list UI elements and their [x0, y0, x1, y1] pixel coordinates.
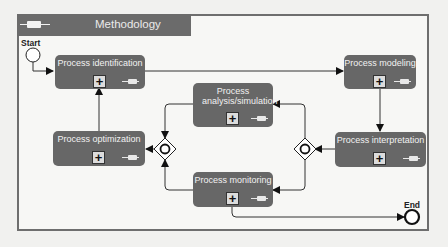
task-label: Process identification	[57, 58, 142, 68]
expand-subprocess-icon[interactable]: +	[226, 112, 239, 125]
message-envelope-icon	[409, 156, 418, 161]
message-envelope-icon	[400, 79, 409, 84]
expand-subprocess-icon[interactable]: +	[93, 75, 106, 88]
task-process-interpretation[interactable]: Process interpretation +	[335, 132, 426, 167]
task-process-optimization[interactable]: Process optimization +	[53, 131, 145, 166]
end-label: End	[404, 200, 420, 210]
expand-subprocess-icon[interactable]: +	[92, 151, 105, 164]
task-label: Process modeling	[344, 58, 416, 68]
expand-subprocess-icon[interactable]: +	[373, 152, 386, 165]
message-envelope-icon	[257, 196, 266, 201]
task-label: Process monitoring	[194, 175, 271, 185]
task-process-modeling[interactable]: Process modeling +	[344, 55, 416, 89]
message-envelope-icon	[257, 116, 266, 121]
start-event[interactable]	[26, 48, 40, 62]
task-label: Process interpretation	[337, 135, 425, 145]
task-process-monitoring[interactable]: Process monitoring +	[193, 172, 273, 207]
task-process-identification[interactable]: Process identification +	[55, 55, 145, 89]
message-envelope-icon	[128, 155, 137, 160]
gateway-right[interactable]	[294, 138, 316, 160]
expand-subprocess-icon[interactable]: +	[373, 75, 386, 88]
task-label: Process analysis/simulation	[202, 86, 264, 106]
gateway-left[interactable]	[154, 138, 176, 160]
message-envelope-icon	[128, 79, 137, 84]
start-label: Start	[21, 38, 40, 48]
end-event[interactable]	[405, 210, 419, 224]
task-label: Process optimization	[57, 134, 140, 144]
task-process-analysis-simulation[interactable]: Process analysis/simulation +	[193, 83, 273, 127]
expand-subprocess-icon[interactable]: +	[226, 192, 239, 205]
